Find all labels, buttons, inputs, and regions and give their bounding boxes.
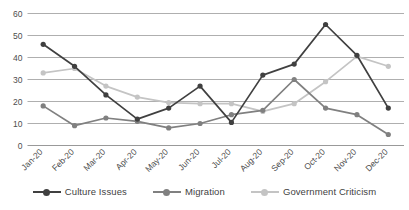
x-axis-tick-label: Apr-20 <box>114 147 139 172</box>
legend-dot <box>261 189 268 196</box>
data-point <box>135 117 140 122</box>
y-axis-tick-label: 40 <box>13 53 23 63</box>
y-axis-tick-label: 50 <box>13 31 23 41</box>
series-culture-issues <box>41 22 391 125</box>
x-axis-tick-labels: Jan-20Feb-20Mar-20Apr-20May-20Jun-20Jul-… <box>19 147 390 174</box>
data-point <box>41 42 46 47</box>
data-point <box>41 103 46 108</box>
data-point <box>354 53 359 58</box>
data-point <box>386 64 391 69</box>
legend-label: Culture Issues <box>65 186 127 197</box>
data-point <box>166 125 171 130</box>
legend-dot <box>163 189 170 196</box>
y-axis-tick-labels: 0102030405060 <box>13 9 23 151</box>
data-point <box>386 106 391 111</box>
line-chart: 0102030405060 Jan-20Feb-20Mar-20Apr-20Ma… <box>0 0 409 210</box>
plot-area: 0102030405060 Jan-20Feb-20Mar-20Apr-20Ma… <box>0 0 409 210</box>
x-axis-tick-label: Feb-20 <box>50 147 76 173</box>
data-point <box>292 62 297 67</box>
data-point <box>197 101 202 106</box>
y-axis-tick-label: 10 <box>13 119 23 129</box>
data-point <box>197 121 202 126</box>
legend-dot <box>43 189 50 196</box>
y-axis-tick-label: 60 <box>13 9 23 19</box>
y-axis-tick-label: 30 <box>13 75 23 85</box>
data-point <box>323 22 328 27</box>
legend-label: Migration <box>185 186 225 197</box>
data-point <box>41 70 46 75</box>
legend-marker-icon <box>153 187 181 196</box>
y-axis-tick-label: 20 <box>13 97 23 107</box>
legend-marker-icon <box>33 187 61 196</box>
data-point <box>292 101 297 106</box>
data-point <box>260 73 265 78</box>
chart-legend: Culture IssuesMigrationGovernment Critic… <box>0 186 409 197</box>
data-point <box>229 112 234 117</box>
data-point <box>292 77 297 82</box>
x-axis-tick-label: Aug-20 <box>238 147 265 174</box>
data-point <box>135 95 140 100</box>
x-axis-tick-label: Dec-20 <box>363 147 390 174</box>
x-axis-tick-label: Oct-20 <box>302 147 327 172</box>
data-point <box>260 108 265 113</box>
series-migration <box>41 77 391 137</box>
data-point <box>166 106 171 111</box>
x-axis-tick-label: Sep-20 <box>269 147 296 174</box>
x-axis-tick-label: Nov-20 <box>332 147 359 174</box>
data-point <box>103 92 108 97</box>
x-axis-tick-label: Jul-20 <box>209 147 233 171</box>
legend-label: Government Criticism <box>283 186 376 197</box>
data-point <box>229 101 234 106</box>
data-point <box>386 132 391 137</box>
data-point <box>323 106 328 111</box>
data-point <box>323 79 328 84</box>
gridlines <box>28 14 405 146</box>
x-axis-tick-label: May-20 <box>143 147 170 174</box>
x-axis-tick-label: Jan-20 <box>19 147 45 173</box>
data-point <box>229 120 234 125</box>
legend-item[interactable]: Migration <box>153 186 225 197</box>
y-axis-tick-label: 0 <box>18 141 23 151</box>
series-line <box>43 80 388 135</box>
data-point <box>103 84 108 89</box>
legend-marker-icon <box>251 187 279 196</box>
data-point <box>72 123 77 128</box>
data-point <box>354 112 359 117</box>
x-axis-tick-label: Mar-20 <box>81 147 107 173</box>
data-point <box>72 64 77 69</box>
data-point <box>197 84 202 89</box>
data-point <box>103 115 108 120</box>
legend-item[interactable]: Culture Issues <box>33 186 127 197</box>
data-point <box>166 100 171 105</box>
legend-item[interactable]: Government Criticism <box>251 186 376 197</box>
x-axis-tick-label: Jun-20 <box>176 147 202 173</box>
